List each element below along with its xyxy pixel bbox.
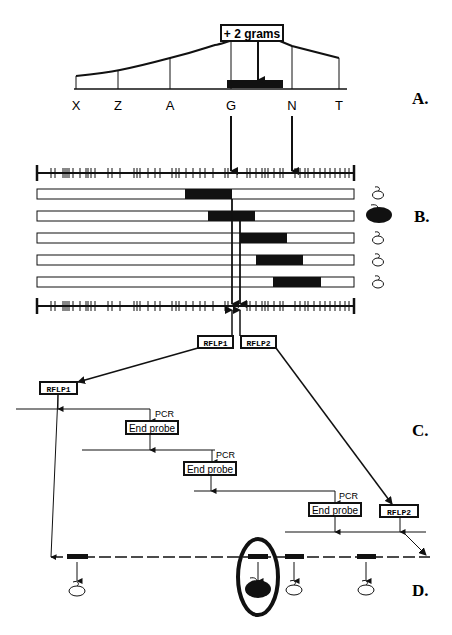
candidate-gene-2-causal <box>248 554 268 559</box>
bac-clone-4 <box>37 255 354 265</box>
rflp2-label: RFLP2 <box>246 339 270 348</box>
effect-label: + 2 grams <box>224 27 281 41</box>
panel-c-chromosome-walk: RFLP1 PCR End probe PCR End probe PCR En… <box>16 348 429 532</box>
bac-clone-3 <box>37 233 354 243</box>
small-fruit-icon <box>373 276 384 288</box>
fine-map-bottom <box>37 298 354 314</box>
bac-clone-5 <box>37 277 354 287</box>
panel-label-a: A. <box>412 89 429 108</box>
pcr-label-3: PCR <box>339 491 359 501</box>
candidate-gene-3 <box>285 554 304 559</box>
end-probe-label-2: End probe <box>187 464 234 475</box>
candidate-gene-1 <box>67 554 88 559</box>
small-fruit-icon <box>286 580 302 595</box>
end-probe-box-2: End probe <box>184 462 236 475</box>
panel-b-bac-contig: B. <box>37 165 430 336</box>
panel-d-candidate-genes: D. <box>51 394 430 615</box>
panel-a-qtl-map: + 2 grams X Z A G N T A. <box>72 25 429 113</box>
panel-label-b: B. <box>414 207 430 226</box>
marker-label-n: N <box>287 98 296 113</box>
marker-label-g: G <box>226 98 236 113</box>
marker-label-z: Z <box>114 98 122 113</box>
bac-clone-2 <box>37 211 354 221</box>
small-fruit-icon <box>373 232 384 244</box>
panel-label-c: C. <box>412 421 429 440</box>
rflp1-walk-start-box: RFLP1 <box>40 382 77 394</box>
rflp2-to-region-arrow <box>403 532 426 555</box>
rflp2-to-walk-arrow <box>276 348 392 504</box>
marker-label-x: X <box>72 98 81 113</box>
small-fruit-icon <box>69 581 85 596</box>
small-fruit-icon <box>358 580 374 595</box>
large-fruit-icon <box>245 578 271 598</box>
rflp2-marker-box: RFLP2 <box>241 336 276 348</box>
qtl-interval-bar <box>227 80 283 88</box>
small-fruit-icon <box>373 254 384 266</box>
lod-curve <box>76 38 339 76</box>
marker-label-a: A <box>166 98 175 113</box>
bac-clone-1 <box>37 189 354 199</box>
pcr-label-1: PCR <box>155 409 175 419</box>
end-probe-label-3: End probe <box>312 505 359 516</box>
end-probe-box-1: End probe <box>126 421 178 434</box>
fine-map-top <box>37 165 354 181</box>
rflp1-to-region-arrow <box>51 394 58 557</box>
end-probe-box-3: End probe <box>309 503 361 516</box>
rflp1-label: RFLP1 <box>203 339 227 348</box>
rflp1-marker-box: RFLP1 <box>198 336 233 348</box>
large-fruit-icon <box>366 205 392 223</box>
end-probe-label-1: End probe <box>129 423 176 434</box>
rflp2-walk-end-box: RFLP2 <box>380 505 418 517</box>
pcr-label-2: PCR <box>216 450 236 460</box>
rflp2-walk-label: RFLP2 <box>387 508 411 517</box>
marker-label-t: T <box>335 98 343 113</box>
rflp1-walk-label: RFLP1 <box>46 385 70 394</box>
rflp1-to-walk-arrow <box>78 348 198 382</box>
candidate-gene-4 <box>357 554 376 559</box>
panel-label-d: D. <box>412 581 429 600</box>
qtl-positional-cloning-diagram: + 2 grams X Z A G N T A. <box>0 0 452 635</box>
small-fruit-icon <box>373 187 384 199</box>
